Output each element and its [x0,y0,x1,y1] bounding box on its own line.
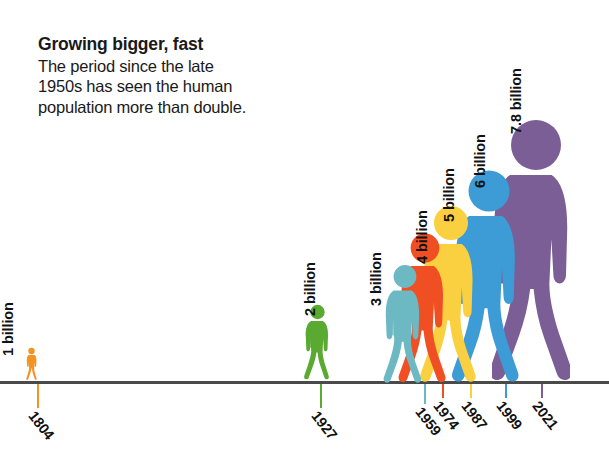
pop-label-1974: 4 billion [414,210,430,264]
leader-line-1974 [442,384,444,398]
pop-label-1987: 5 billion [441,168,457,222]
pop-label-1927: 2 billion [302,262,318,316]
figure-1804 [24,347,40,383]
leader-line-1987 [470,384,472,398]
caption-block: Growing bigger, fast The period since th… [38,34,308,118]
walking-person-icon [24,347,40,383]
page-title: Growing bigger, fast [38,34,308,55]
year-label-1804: 1804 [25,408,57,443]
pop-label-1999: 6 billion [472,134,488,188]
leader-line-1804 [37,384,39,408]
year-label-1987: 1987 [458,398,490,433]
year-label-2021: 2021 [529,398,561,433]
pop-label-1959: 3 billion [368,252,384,306]
year-label-1927: 1927 [308,408,340,443]
subtitle-line-1: The period since the late [38,56,308,77]
population-growth-infographic: Growing bigger, fast The period since th… [0,0,609,459]
pop-label-2021: 7.8 billion [508,68,524,134]
year-label-1999: 1999 [493,398,525,433]
pop-label-1804: 1 billion [0,302,16,356]
leader-line-1999 [505,384,507,398]
subtitle-line-2: 1950s has seen the human [38,76,308,97]
subtitle-line-3: population more than double. [38,97,308,118]
walking-person-icon [382,263,424,383]
leader-line-1927 [320,384,322,408]
leader-line-1959 [424,384,426,404]
figure-1959 [382,263,424,383]
page-subtitle: The period since the late 1950s has seen… [38,56,308,118]
leader-line-2021 [541,384,543,398]
